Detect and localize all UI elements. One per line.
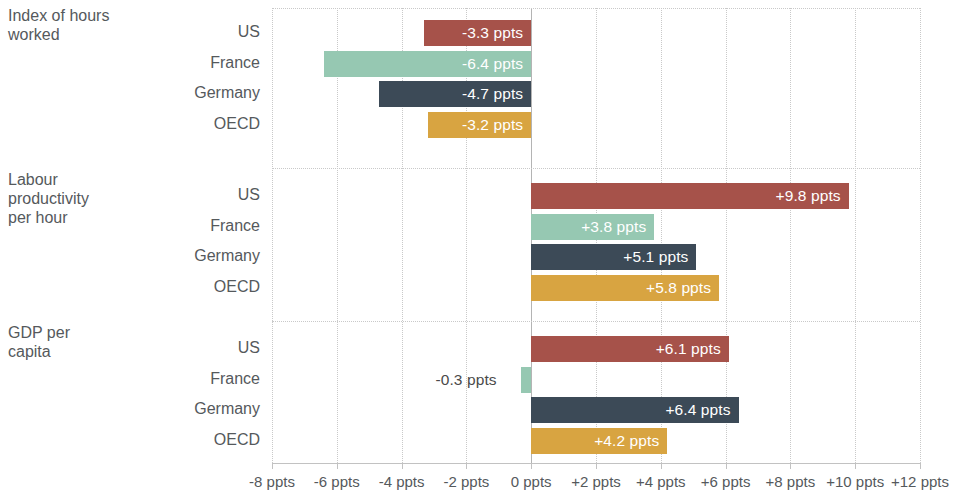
x-axis-tick-label: +6 ppts <box>701 473 751 490</box>
group-separator <box>272 8 920 9</box>
gridline <box>855 8 856 463</box>
series-label-us: US <box>100 339 260 357</box>
bar[interactable]: +6.4 ppts <box>531 397 738 423</box>
series-label-us: US <box>100 23 260 41</box>
x-axis-tick-label: -4 ppts <box>379 473 425 490</box>
bar-value-label: +9.8 ppts <box>776 187 841 205</box>
gridline <box>272 8 273 463</box>
x-axis-tick <box>531 463 532 469</box>
gridline <box>661 8 662 463</box>
x-axis-tick-label: -6 ppts <box>314 473 360 490</box>
x-axis-tick <box>466 463 467 469</box>
bar-value-label: -6.4 ppts <box>462 55 523 73</box>
plot-area: -3.3 ppts-6.4 ppts-4.7 ppts-3.2 ppts+9.8… <box>272 8 920 463</box>
bar[interactable]: -0.3 ppts <box>521 367 531 393</box>
bar[interactable]: +3.8 ppts <box>531 214 654 240</box>
series-label-oecd: OECD <box>100 278 260 296</box>
x-axis-tick-label: +2 ppts <box>571 473 621 490</box>
bar[interactable]: +9.8 ppts <box>531 183 849 209</box>
series-label-us: US <box>100 186 260 204</box>
x-axis-tick <box>920 463 921 469</box>
bar[interactable]: -3.2 ppts <box>428 112 532 138</box>
series-label-oecd: OECD <box>100 431 260 449</box>
series-label-germany: Germany <box>100 400 260 418</box>
group-separator <box>272 168 920 169</box>
bar-value-label: -4.7 ppts <box>462 85 523 103</box>
group-separator <box>272 321 920 322</box>
x-axis-tick-label: +12 ppts <box>891 473 949 490</box>
bar-value-label: +3.8 ppts <box>581 218 646 236</box>
bar-value-label: -3.2 ppts <box>462 116 523 134</box>
series-label-oecd: OECD <box>100 115 260 133</box>
series-label-france: France <box>100 217 260 235</box>
series-label-france: France <box>100 370 260 388</box>
bar-value-label: -0.3 ppts <box>435 371 496 389</box>
bar[interactable]: -6.4 ppts <box>324 51 531 77</box>
bar[interactable]: +4.2 ppts <box>531 428 667 454</box>
x-axis-tick <box>726 463 727 469</box>
x-axis-tick-label: -2 ppts <box>443 473 489 490</box>
bar-value-label: +4.2 ppts <box>594 432 659 450</box>
series-label-germany: Germany <box>100 247 260 265</box>
bar-value-label: -3.3 ppts <box>462 24 523 42</box>
bar[interactable]: -4.7 ppts <box>379 81 531 107</box>
x-axis-tick <box>790 463 791 469</box>
x-axis-tick-label: -8 ppts <box>249 473 295 490</box>
bar-value-label: +6.4 ppts <box>665 401 730 419</box>
bar-value-label: +5.8 ppts <box>646 279 711 297</box>
gridline <box>790 8 791 463</box>
bar[interactable]: +5.8 ppts <box>531 275 719 301</box>
grouped-bar-chart: Index of hours worked Labour productivit… <box>0 0 953 496</box>
x-axis-tick-label: +10 ppts <box>826 473 884 490</box>
bar-value-label: +6.1 ppts <box>656 340 721 358</box>
series-label-germany: Germany <box>100 84 260 102</box>
x-axis-tick-label: 0 ppts <box>511 473 552 490</box>
bar[interactable]: +6.1 ppts <box>531 336 729 362</box>
x-axis-tick <box>337 463 338 469</box>
gridline <box>920 8 921 463</box>
gridline <box>726 8 727 463</box>
x-axis-tick <box>661 463 662 469</box>
x-axis-tick <box>402 463 403 469</box>
bar[interactable]: -3.3 ppts <box>424 20 531 46</box>
bar[interactable]: +5.1 ppts <box>531 244 696 270</box>
x-axis-tick <box>596 463 597 469</box>
x-axis-tick-label: +4 ppts <box>636 473 686 490</box>
bar-value-label: +5.1 ppts <box>623 248 688 266</box>
series-label-france: France <box>100 54 260 72</box>
x-axis-tick-label: +8 ppts <box>766 473 816 490</box>
x-axis-tick <box>855 463 856 469</box>
x-axis-tick <box>272 463 273 469</box>
